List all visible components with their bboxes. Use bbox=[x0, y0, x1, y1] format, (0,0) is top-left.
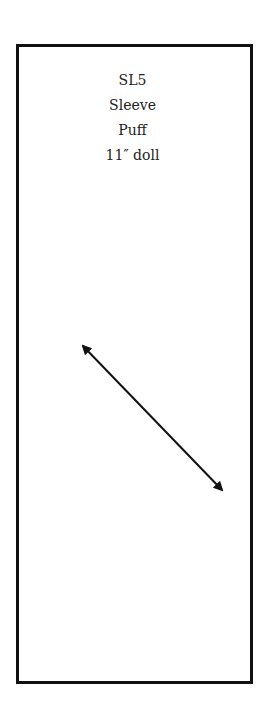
double-headed-arrow-icon bbox=[0, 0, 265, 724]
